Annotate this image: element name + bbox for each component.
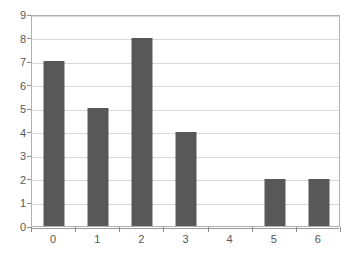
y-tick-mark-1 [27,203,31,204]
x-axis-tick-label-2: 2 [121,233,161,246]
y-tick-mark-9 [27,15,31,16]
x-axis-tick-label-4: 4 [210,233,250,246]
y-axis-tick-label-8: 8 [2,33,26,44]
x-tick-mark [75,227,76,232]
y-axis-tick-label-1: 1 [2,198,26,209]
gridline-0 [32,228,339,229]
y-tick-mark-6 [27,85,31,86]
y-tick-mark-8 [27,38,31,39]
x-tick-mark [208,227,209,232]
x-axis-tick-label-5: 5 [254,233,294,246]
bar[interactable] [308,179,329,226]
x-axis-tick-label-0: 0 [33,233,73,246]
y-axis-tick-label-3: 3 [2,151,26,162]
plot-area [31,15,340,227]
x-tick-mark [163,227,164,232]
bar[interactable] [264,179,285,226]
bar-slot [297,16,341,226]
x-tick-mark [296,227,297,232]
x-tick-mark [340,227,341,232]
bar-slot [209,16,253,226]
bar-slot [253,16,297,226]
bar[interactable] [132,38,153,226]
y-axis-tick-label-9: 9 [2,10,26,21]
x-axis-tick-label-3: 3 [166,233,206,246]
bar-slot [120,16,164,226]
x-axis-tick-label-6: 6 [298,233,338,246]
y-axis-tick-label-2: 2 [2,174,26,185]
y-tick-mark-2 [27,179,31,180]
bar-chart: 0123456789 0123456 [0,0,351,254]
x-tick-mark [252,227,253,232]
y-axis-tick-label-0: 0 [2,222,26,233]
x-tick-mark [119,227,120,232]
bar-slot [164,16,208,226]
bar[interactable] [44,61,65,226]
x-tick-mark [31,227,32,232]
y-axis-tick-label-4: 4 [2,127,26,138]
bar[interactable] [176,132,197,226]
x-axis-tick-label-1: 1 [77,233,117,246]
y-axis-tick-label-5: 5 [2,104,26,115]
bar[interactable] [88,108,109,226]
bar-slot [32,16,76,226]
y-axis-tick-label-6: 6 [2,80,26,91]
bars-layer [32,16,339,226]
y-tick-mark-5 [27,109,31,110]
y-tick-mark-4 [27,132,31,133]
y-tick-mark-3 [27,156,31,157]
y-tick-mark-7 [27,62,31,63]
bar-slot [76,16,120,226]
y-axis-tick-label-7: 7 [2,57,26,68]
